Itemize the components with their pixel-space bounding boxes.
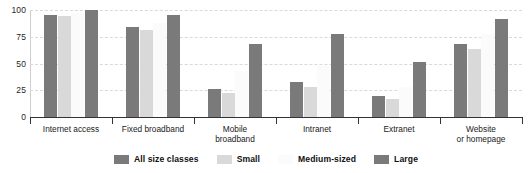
bar: [208, 89, 221, 117]
bar: [317, 66, 330, 117]
y-tick-label: 25: [16, 85, 26, 95]
bar: [468, 49, 481, 117]
bar: [331, 34, 344, 117]
legend-item[interactable]: Medium-sized: [278, 154, 356, 164]
legend-swatch: [217, 155, 232, 164]
legend-item[interactable]: All size classes: [114, 154, 199, 164]
x-axis-label: Extranet: [358, 124, 440, 134]
bar: [386, 99, 399, 117]
bar: [71, 13, 84, 117]
legend: All size classesSmallMedium-sizedLarge: [0, 151, 532, 167]
bar: [44, 15, 57, 117]
x-axis-label: Internet access: [30, 124, 112, 134]
x-axis-tick: [522, 117, 523, 124]
x-axis-tick: [30, 117, 31, 124]
legend-label: Small: [237, 154, 260, 164]
bar: [58, 16, 71, 117]
bar-group: [358, 10, 440, 117]
x-axis-label: Mobile broadband: [194, 124, 276, 144]
bar: [454, 44, 467, 117]
bar-group: [194, 10, 276, 117]
bar-group: [276, 10, 358, 117]
x-axis-label: Fixed broadband: [112, 124, 194, 134]
y-tick-label: 100: [12, 5, 26, 15]
bar: [481, 34, 494, 117]
bar: [399, 87, 412, 117]
bar: [249, 44, 262, 117]
legend-label: All size classes: [134, 154, 199, 164]
y-tick-label: 75: [16, 32, 26, 42]
bar: [372, 96, 385, 117]
legend-swatch: [114, 155, 129, 164]
x-axis-tick: [358, 117, 359, 124]
legend-label: Large: [394, 154, 418, 164]
x-axis-label: Intranet: [276, 124, 358, 134]
bar-chart: 0255075100 Internet accessFixed broadban…: [0, 0, 532, 173]
bar-group: [440, 10, 522, 117]
plot-area: [30, 10, 522, 117]
x-axis-tick: [112, 117, 113, 124]
bar-group: [30, 10, 112, 117]
bar: [290, 82, 303, 117]
y-tick-label: 0: [21, 112, 26, 122]
y-tick-label: 50: [16, 59, 26, 69]
legend-label: Medium-sized: [298, 154, 356, 164]
bar: [140, 30, 153, 117]
bar: [167, 15, 180, 117]
bar: [126, 27, 139, 117]
bar: [222, 93, 235, 117]
x-axis-tick: [276, 117, 277, 124]
legend-swatch: [374, 155, 389, 164]
bar: [413, 62, 426, 117]
x-axis-label: Website or homepage: [440, 124, 522, 144]
x-axis-tick: [440, 117, 441, 124]
bar: [153, 23, 166, 117]
legend-item[interactable]: Large: [374, 154, 418, 164]
bar-group: [112, 10, 194, 117]
legend-item[interactable]: Small: [217, 154, 260, 164]
bar: [235, 71, 248, 117]
bar: [495, 19, 508, 117]
y-axis: 0255075100: [0, 0, 28, 117]
x-axis-tick: [194, 117, 195, 124]
bar: [85, 10, 98, 117]
bar: [304, 87, 317, 117]
legend-swatch: [278, 155, 293, 164]
